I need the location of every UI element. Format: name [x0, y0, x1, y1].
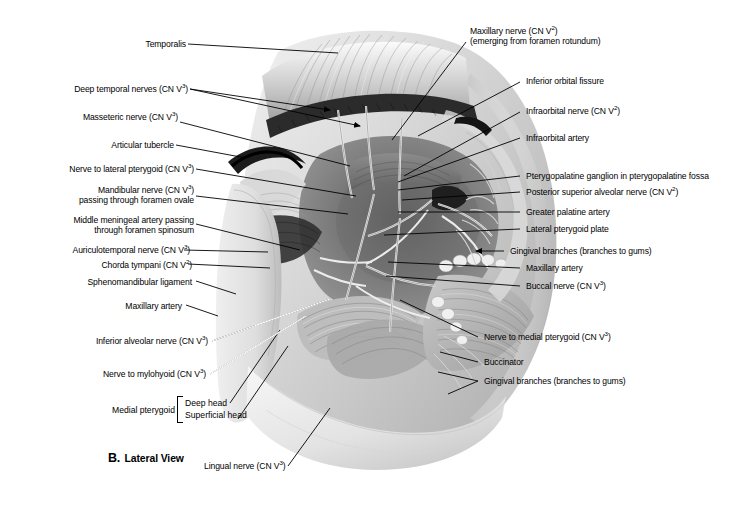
- label-deep-temporal-nerves[interactable]: Deep temporal nerves (CN V3): [0, 84, 188, 94]
- label-middle-meningeal-artery[interactable]: Middle meningeal artery passing through …: [0, 215, 194, 236]
- label-temporalis[interactable]: Temporalis: [0, 39, 186, 49]
- label-text-line1: Middle meningeal artery passing: [0, 215, 194, 225]
- label-text: Maxillary artery: [526, 263, 583, 273]
- artist-signature: [520, 466, 750, 522]
- label-text: Pterygopalatine ganglion in pterygopalat…: [526, 171, 709, 181]
- label-chorda-tympani[interactable]: Chorda tympani (CN V2): [0, 260, 192, 270]
- grouping-bracket: [177, 396, 183, 423]
- label-medial-pterygoid: Medial pterygoid: [112, 405, 177, 415]
- label-text: Infraorbital artery: [526, 133, 589, 143]
- label-text: Articular tubercle: [111, 140, 174, 150]
- label-maxillary-artery-left[interactable]: Maxillary artery: [0, 301, 182, 311]
- caption-text: Lateral View: [125, 453, 184, 464]
- label-posterior-superior-alveolar-nerve[interactable]: Posterior superior alveolar nerve (CN V2…: [526, 187, 678, 197]
- label-infraorbital-artery[interactable]: Infraorbital artery: [526, 133, 589, 143]
- label-auriculotemporal-nerve[interactable]: Auriculotemporal nerve (CN V3): [0, 245, 190, 255]
- label-buccal-nerve[interactable]: Buccal nerve (CN V3): [526, 281, 606, 291]
- label-lingual-nerve[interactable]: Lingual nerve (CN V3): [204, 461, 286, 471]
- label-text-line2: passing through foramen ovale: [0, 195, 194, 205]
- label-inferior-orbital-fissure[interactable]: Inferior orbital fissure: [526, 76, 604, 86]
- label-text: Greater palatine artery: [526, 207, 610, 217]
- label-gingival-branches-upper[interactable]: Gingival branches (branches to gums): [510, 246, 652, 256]
- label-text: Lateral pterygoid plate: [526, 224, 609, 234]
- label-text: Maxillary artery: [125, 301, 182, 311]
- label-text: Gingival branches (branches to gums): [484, 376, 626, 386]
- label-inferior-alveolar-nerve[interactable]: Inferior alveolar nerve (CN V3): [0, 336, 208, 346]
- label-text: Temporalis: [145, 39, 186, 49]
- label-maxillary-artery-right[interactable]: Maxillary artery: [526, 263, 583, 273]
- label-text: Buccinator: [484, 357, 524, 367]
- label-buccinator[interactable]: Buccinator: [484, 357, 524, 367]
- label-gingival-branches-lower[interactable]: Gingival branches (branches to gums): [484, 376, 626, 386]
- caption-letter: B.: [108, 451, 120, 465]
- figure-caption: B. Lateral View: [108, 448, 184, 466]
- label-lateral-pterygoid-plate[interactable]: Lateral pterygoid plate: [526, 224, 609, 234]
- label-text: Sphenomandibular ligament: [87, 277, 192, 287]
- label-nerve-to-medial-pterygoid[interactable]: Nerve to medial pterygoid (CN V3): [484, 332, 611, 342]
- label-articular-tubercle[interactable]: Articular tubercle: [0, 140, 174, 150]
- label-nerve-to-mylohyoid[interactable]: Nerve to mylohyoid (CN V3): [0, 369, 206, 379]
- label-deep-head: Deep head: [185, 398, 247, 409]
- label-greater-palatine-artery[interactable]: Greater palatine artery: [526, 207, 610, 217]
- label-pterygopalatine-ganglion[interactable]: Pterygopalatine ganglion in pterygopalat…: [526, 171, 709, 181]
- label-maxillary-nerve[interactable]: Maxillary nerve (CN V2) (emerging from f…: [470, 26, 601, 47]
- label-sphenomandibular-ligament[interactable]: Sphenomandibular ligament: [0, 277, 192, 287]
- figure-plate: Temporalis Deep temporal nerves (CN V3) …: [0, 0, 750, 522]
- label-masseteric-nerve[interactable]: Masseteric nerve (CN V3): [0, 112, 178, 122]
- label-text: Gingival branches (branches to gums): [510, 246, 652, 256]
- label-superficial-head: Superficial head: [185, 410, 247, 421]
- label-text-line2: (emerging from foramen rotundum): [470, 36, 601, 46]
- label-mandibular-nerve[interactable]: Mandibular nerve (CN V3) passing through…: [0, 185, 194, 206]
- label-text: Inferior orbital fissure: [526, 76, 604, 86]
- label-nerve-to-lateral-pterygoid[interactable]: Nerve to lateral pterygoid (CN V3): [0, 164, 194, 174]
- label-text-line2: through foramen spinosum: [0, 225, 194, 235]
- label-infraorbital-nerve[interactable]: Infraorbital nerve (CN V2): [526, 106, 620, 116]
- label-medial-pterygoid-group[interactable]: Medial pterygoid Deep head Superficial h…: [112, 396, 247, 423]
